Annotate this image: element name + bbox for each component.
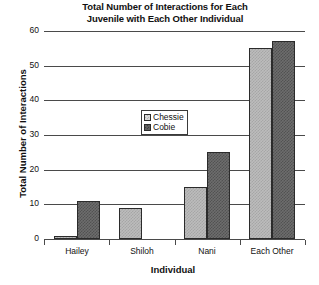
legend-item-chessie: Chessie — [144, 112, 184, 122]
bar-cobie-nani — [207, 152, 230, 239]
legend-label-cobie: Cobie — [153, 122, 175, 132]
y-tick-label-50: 50 — [30, 60, 39, 70]
bar-cobie-hailey — [77, 201, 100, 239]
bar-cobie-each-other — [272, 41, 295, 239]
y-tick-label-30: 30 — [30, 129, 39, 139]
chart-legend: ChessieCobie — [141, 110, 188, 135]
gridline-60: 60 — [44, 31, 305, 32]
y-tick-label-60: 60 — [30, 25, 39, 35]
legend-label-chessie: Chessie — [153, 112, 184, 122]
bar-chessie-nani — [184, 187, 207, 239]
x-axis-tick — [240, 240, 241, 245]
legend-swatch-chessie — [144, 114, 151, 121]
x-axis-tick — [44, 240, 45, 245]
y-axis-label: Total Number of Interactions — [17, 54, 28, 214]
x-tick-label-each-other: Each Other — [232, 246, 312, 256]
chart-title-line-2: Juvenile with Each Other Individual — [30, 13, 300, 25]
x-axis-tick — [109, 240, 110, 245]
bar-chart-figure: Total Number of Interactions for Each Ju… — [0, 0, 319, 285]
bar-chessie-each-other — [249, 48, 272, 239]
x-axis-label: Individual — [40, 264, 306, 275]
legend-swatch-cobie — [144, 124, 151, 131]
x-axis-tick — [305, 240, 306, 245]
chart-title-line-1: Total Number of Interactions for Each — [30, 1, 300, 13]
y-tick-label-10: 10 — [30, 198, 39, 208]
bar-chessie-shiloh — [119, 208, 142, 239]
legend-item-cobie: Cobie — [144, 122, 184, 132]
plot-area: 0102030405060 HaileyShilohNaniEach Other — [44, 31, 305, 239]
y-tick-label-20: 20 — [30, 164, 39, 174]
y-tick-label-40: 40 — [30, 94, 39, 104]
bar-chessie-hailey — [54, 236, 77, 239]
chart-title: Total Number of Interactions for Each Ju… — [30, 1, 300, 24]
y-tick-label-0: 0 — [34, 233, 39, 243]
x-axis-tick — [175, 240, 176, 245]
